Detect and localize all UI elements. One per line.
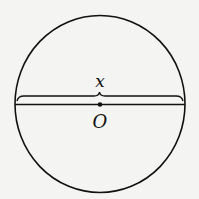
brace — [17, 92, 183, 101]
center-point — [98, 102, 103, 107]
circle-diagram: x O — [0, 0, 199, 199]
diagram-canvas: x O — [0, 0, 199, 199]
center-label: O — [93, 111, 108, 132]
diameter-label: x — [95, 71, 105, 91]
